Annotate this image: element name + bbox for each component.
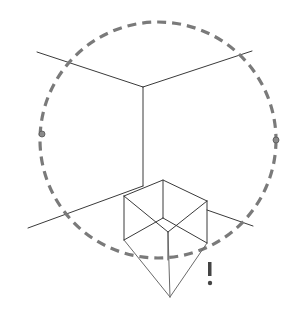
- perspective-sketch: [0, 0, 298, 317]
- warning-exclamation-icon: [208, 262, 212, 285]
- apex-lines: [124, 232, 207, 297]
- circle-side-marks: [39, 131, 279, 143]
- cone-of-vision-circle: [40, 22, 276, 258]
- room-corner-lines: [28, 51, 253, 228]
- cube-drawing: [124, 180, 207, 260]
